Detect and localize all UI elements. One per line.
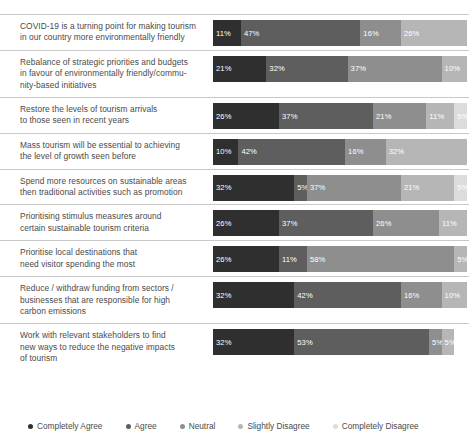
row-label: COVID-19 is a turning point for making t… (0, 15, 213, 50)
bar-segment-value: 16% (348, 147, 364, 156)
row-label-line: Prioritise local destinations that (20, 247, 203, 258)
bar-segment: 32% (266, 56, 347, 82)
row-bar-wrap: 11%47%16%26% (213, 15, 469, 46)
bar-segment: 5% (442, 329, 455, 355)
chart-row: Reduce / withdraw funding from sectors /… (0, 276, 469, 323)
chart-row: Restore the levels of tourism arrivalsto… (0, 97, 469, 133)
bar-segment-value: 37% (282, 112, 298, 121)
stacked-bar: 10%42%16%32% (213, 139, 467, 165)
bar-segment-value: 32% (389, 147, 405, 156)
row-bar-wrap: 32%53%5%5% (213, 324, 469, 355)
chart-row: Mass tourism will be essential to achiev… (0, 133, 469, 169)
row-label-line: in favour of environmentally friendly/co… (20, 68, 203, 79)
stacked-bar: 32%42%16%10% (213, 282, 467, 308)
bar-segment-value: 26% (404, 29, 420, 38)
row-label: Restore the levels of tourism arrivalsto… (0, 98, 213, 133)
row-label: Prioritise local destinations thatneed v… (0, 241, 213, 276)
row-label-line: Spend more resources on sustainable area… (20, 176, 203, 187)
row-label-line: Mass tourism will be essential to achiev… (20, 140, 203, 151)
row-label-line: Work with relevant stakeholders to find (20, 330, 203, 341)
bar-segment: 32% (213, 282, 294, 308)
legend-item[interactable]: Completely Agree (28, 421, 103, 431)
likert-stacked-bar-chart: COVID-19 is a turning point for making t… (0, 0, 469, 441)
bar-segment-value: 11% (429, 112, 444, 121)
bar-segment-value: 16% (363, 29, 379, 38)
bar-segment: 16% (401, 282, 442, 308)
bar-segment: 42% (294, 282, 401, 308)
bar-segment: 47% (241, 20, 360, 46)
legend-item[interactable]: Slightly Disagree (238, 421, 309, 431)
chart-row: Prioritise local destinations thatneed v… (0, 240, 469, 276)
bar-segment: 5% (454, 246, 467, 272)
bar-segment: 16% (345, 139, 386, 165)
row-label-line: nity-based initiatives (20, 80, 203, 91)
bar-segment: 5% (429, 329, 442, 355)
row-bar-wrap: 10%42%16%32% (213, 134, 469, 165)
bar-segment: 37% (279, 210, 373, 236)
bar-segment-value: 11% (216, 29, 231, 38)
bar-segment-value: 42% (297, 291, 313, 300)
row-bar-wrap: 26%37%21%11%5% (213, 98, 469, 129)
row-label-line: to those seen in recent years (20, 115, 203, 126)
row-label: Reduce / withdraw funding from sectors /… (0, 277, 213, 323)
row-bar-wrap: 32%5%37%21%5% (213, 170, 469, 201)
stacked-bar: 26%37%21%11%5% (213, 103, 467, 129)
row-label-line: in our country more environmentally frie… (20, 32, 203, 43)
stacked-bar: 11%47%16%26% (213, 20, 467, 46)
row-label-line: COVID-19 is a turning point for making t… (20, 21, 203, 32)
bar-segment-value: 26% (216, 219, 232, 228)
bar-segment-value: 5% (445, 338, 455, 347)
chart-rows: COVID-19 is a turning point for making t… (0, 14, 469, 371)
legend-label: Agree (135, 421, 157, 431)
legend-label: Neutral (189, 421, 216, 431)
row-label-line: the level of growth seen before (20, 151, 203, 162)
bar-segment-value: 10% (445, 291, 461, 300)
bar-segment: 5% (454, 175, 467, 201)
bar-segment: 37% (307, 175, 401, 201)
bar-segment: 26% (213, 210, 279, 236)
bar-segment: 11% (279, 246, 307, 272)
legend-label: Slightly Disagree (247, 421, 309, 431)
bar-segment-value: 42% (241, 147, 257, 156)
legend-item[interactable]: Completely Disagree (333, 421, 419, 431)
row-label: Mass tourism will be essential to achiev… (0, 134, 213, 169)
legend-item[interactable]: Neutral (180, 421, 216, 431)
row-label-line: carbon emissions (20, 306, 203, 317)
bar-segment: 16% (360, 20, 401, 46)
bar-segment-value: 5% (457, 183, 467, 192)
bar-segment: 10% (442, 282, 467, 308)
bar-segment-value: 32% (216, 338, 232, 347)
bar-segment: 26% (213, 103, 279, 129)
bar-segment-value: 21% (376, 112, 392, 121)
bar-segment: 26% (213, 246, 279, 272)
legend-swatch-icon (180, 424, 185, 429)
row-bar-wrap: 21%32%37%10% (213, 51, 469, 82)
bar-segment: 32% (213, 175, 294, 201)
row-label: Spend more resources on sustainable area… (0, 170, 213, 205)
bar-segment-value: 10% (445, 64, 461, 73)
bar-segment: 21% (401, 175, 454, 201)
legend-swatch-icon (126, 424, 131, 429)
bar-segment: 5% (294, 175, 307, 201)
bar-segment: 26% (401, 20, 467, 46)
bar-segment: 37% (348, 56, 442, 82)
row-label-line: of tourism (20, 353, 203, 364)
bar-segment-value: 53% (297, 338, 313, 347)
bar-segment-value: 5% (432, 338, 442, 347)
legend-item[interactable]: Agree (126, 421, 157, 431)
bar-segment-value: 11% (282, 255, 297, 264)
bar-segment: 21% (213, 56, 266, 82)
bar-segment: 58% (307, 246, 454, 272)
row-label-line: certain sustainable tourism criteria (20, 223, 203, 234)
bar-segment: 53% (294, 329, 429, 355)
row-label-line: Prioritising stimulus measures around (20, 211, 203, 222)
chart-row: Prioritising stimulus measures aroundcer… (0, 204, 469, 240)
row-label-line: new ways to reduce the negative impacts (20, 342, 203, 353)
bar-segment: 37% (279, 103, 373, 129)
legend-swatch-icon (333, 424, 338, 429)
bar-segment-value: 11% (442, 219, 457, 228)
legend-label: Completely Disagree (342, 421, 419, 431)
stacked-bar: 32%53%5%5% (213, 329, 467, 355)
bar-segment-value: 37% (351, 64, 367, 73)
row-label-line: Reduce / withdraw funding from sectors / (20, 283, 203, 294)
